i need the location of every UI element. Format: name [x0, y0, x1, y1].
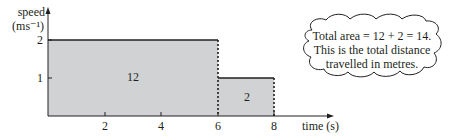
y-tick-label-2: 2 [37, 33, 43, 47]
region-label-2: 2 [244, 90, 250, 104]
region-label-12: 12 [127, 70, 139, 84]
y-axis-label-line2: (ms⁻¹) [12, 19, 44, 33]
x-axis-label: time (s) [302, 119, 339, 133]
annotation-line-2: This is the total distance [314, 43, 431, 57]
x-tick-label-6: 6 [215, 119, 221, 133]
x-tick-label-8: 8 [271, 119, 277, 133]
annotation-line-1: Total area = 12 + 2 = 14. [313, 29, 432, 43]
y-tick-label-1: 1 [37, 71, 43, 85]
speed-time-chart: 2 1 2 4 6 8 speed (ms⁻¹) time (s) 12 2 T… [0, 0, 460, 137]
x-tick-label-2: 2 [102, 119, 108, 133]
x-axis-arrow-icon [327, 114, 334, 119]
y-axis-arrow-icon [46, 7, 51, 14]
y-axis-label-line1: speed [18, 5, 45, 19]
annotation-line-3: travelled in metres. [326, 57, 418, 71]
x-tick-label-4: 4 [158, 119, 164, 133]
